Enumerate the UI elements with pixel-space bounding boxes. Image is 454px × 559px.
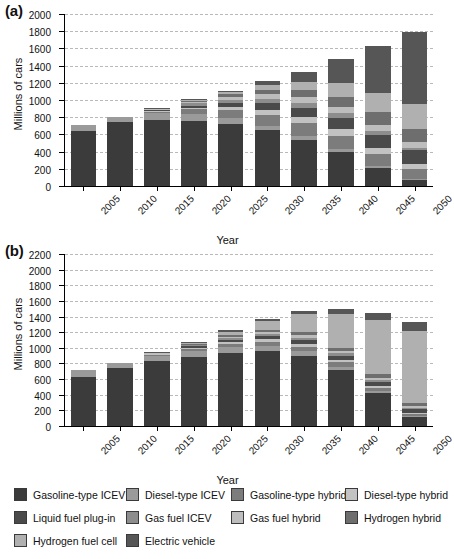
y-axis-tick-label: 0	[45, 182, 51, 193]
legend-label: Liquid fuel plug-in	[33, 512, 115, 524]
bar-2010	[107, 117, 133, 186]
bar-segment	[144, 361, 170, 426]
x-axis-tick	[231, 426, 232, 431]
legend-item[interactable]: Electric vehicle	[126, 530, 215, 551]
legend-item[interactable]: Gas fuel ICEV	[126, 507, 212, 528]
x-axis-tick-label: 2045	[393, 433, 417, 457]
bar-segment	[107, 368, 133, 426]
bar-segment	[291, 82, 317, 91]
legend-item[interactable]: Gasoline-type ICEV	[14, 484, 125, 505]
bar-segment	[291, 90, 317, 97]
bar-segment	[365, 135, 391, 148]
legend-label: Gasoline-type hybrid	[250, 489, 346, 501]
bar-segment	[255, 336, 281, 339]
bar-segment	[402, 331, 428, 404]
y-axis-tick: 800	[59, 117, 65, 118]
bar-segment	[71, 370, 97, 377]
y-axis-tick-label: 1600	[29, 296, 51, 307]
x-axis-tick-label: 2015	[173, 193, 197, 217]
bar-segment	[181, 99, 207, 100]
bar-segment	[291, 351, 317, 355]
bar-segment	[365, 382, 391, 386]
bar-segment	[181, 109, 207, 113]
x-axis-tick	[120, 186, 121, 191]
bar-segment	[255, 351, 281, 426]
bar-segment	[328, 348, 354, 351]
bar-segment	[144, 112, 170, 114]
bar-segment	[181, 351, 207, 357]
legend-swatch-icon	[231, 511, 244, 524]
legend-item[interactable]: Hydrogen fuel cell	[14, 530, 117, 551]
bar-segment	[328, 353, 354, 356]
bar-segment	[291, 136, 317, 139]
x-axis-tick	[341, 426, 342, 431]
legend-row: Liquid fuel plug-inGas fuel ICEVGas fuel…	[0, 507, 439, 528]
legend-item[interactable]: Gasoline-type hybrid	[231, 484, 346, 505]
legend-item[interactable]: Diesel-type hybrid	[345, 484, 448, 505]
y-axis-tick: 1400	[59, 66, 65, 67]
bar-segment	[144, 354, 170, 355]
bar-segment	[291, 103, 317, 108]
y-axis-tick: 1800	[59, 285, 65, 286]
bar-segment	[181, 100, 207, 101]
legend-item[interactable]: Diesel-type ICEV	[126, 484, 225, 505]
legend-swatch-icon	[14, 488, 27, 501]
bar-segment	[402, 179, 428, 180]
bar-2050	[402, 32, 428, 186]
bar-segment	[218, 124, 244, 186]
y-axis-tick: 2200	[59, 254, 65, 255]
x-axis-tick	[157, 426, 158, 431]
bar-segment	[107, 363, 133, 368]
legend-item[interactable]: Hydrogen hybrid	[345, 507, 441, 528]
bar-segment	[255, 330, 281, 332]
legend-item[interactable]: Liquid fuel plug-in	[14, 507, 115, 528]
bar-2030	[255, 319, 281, 427]
y-axis-tick-label: 600	[34, 130, 51, 141]
bar-2045	[365, 313, 391, 426]
bar-segment	[107, 117, 133, 123]
gridline	[65, 301, 433, 302]
bar-segment	[328, 136, 354, 149]
y-axis-tick: 1000	[59, 100, 65, 101]
bar-segment	[255, 90, 281, 95]
bar-segment	[328, 129, 354, 135]
bar-segment	[144, 353, 170, 354]
bar-segment	[181, 342, 207, 343]
bar-2005	[71, 370, 97, 426]
bar-segment	[328, 309, 354, 314]
bar-segment	[218, 338, 244, 340]
y-axis-tick: 400	[59, 152, 65, 153]
x-axis-tick-label: 2030	[283, 193, 307, 217]
bar-segment	[291, 123, 317, 136]
bar-segment	[255, 126, 281, 130]
x-axis-tick-label: 2005	[99, 193, 123, 217]
y-axis-tick-label: 1200	[29, 78, 51, 89]
bar-segment	[218, 100, 244, 103]
x-axis-tick-label: 2005	[99, 433, 123, 457]
bar-segment	[328, 314, 354, 348]
y-axis-tick: 600	[59, 379, 65, 380]
bar-segment	[181, 346, 207, 347]
x-axis-tick-label: 2050	[430, 193, 454, 217]
bar-2010	[107, 363, 133, 426]
panel-a: (a) Millions of cars 0200400600800100012…	[0, 0, 439, 240]
bar-segment	[255, 319, 281, 322]
bar-segment	[402, 413, 428, 414]
bar-segment	[328, 367, 354, 370]
bar-segment	[255, 99, 281, 104]
x-axis-tick-label: 2025	[246, 433, 270, 457]
bar-segment	[255, 130, 281, 186]
y-axis-tick: 0	[59, 426, 65, 427]
legend-item[interactable]: Gas fuel hybrid	[231, 507, 321, 528]
bar-segment	[218, 337, 244, 338]
bar-segment	[144, 356, 170, 361]
bar-segment	[218, 92, 244, 94]
legend-swatch-icon	[14, 534, 27, 547]
x-axis-tick	[231, 186, 232, 191]
legend-row: Gasoline-type ICEVDiesel-type ICEVGasoli…	[0, 484, 439, 505]
x-axis-tick	[157, 186, 158, 191]
bar-2015	[144, 108, 170, 186]
bar-segment	[144, 110, 170, 111]
legend-label: Diesel-type ICEV	[145, 489, 225, 501]
